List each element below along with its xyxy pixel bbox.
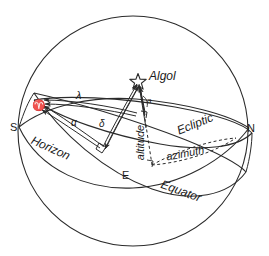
celestial-sphere-diagram: Algol ♈ λ α δ a altitude azimuth Eclipti…	[0, 0, 269, 256]
cardinal-east-label: E	[122, 170, 129, 181]
right-ascension-label: α	[71, 118, 77, 128]
cardinal-north-label: N	[247, 123, 255, 134]
altitude-label: altitude	[135, 125, 146, 160]
star-icon	[130, 74, 146, 90]
lambda-arc	[44, 100, 137, 113]
delta-arc-return	[105, 87, 138, 149]
star-to-horizon-segment	[139, 85, 146, 128]
right-rim-cap-arc	[246, 133, 252, 172]
ecliptic-longitude-label: λ	[76, 90, 81, 101]
altitude-angle-label: a	[147, 97, 151, 105]
cardinal-south-label: S	[10, 122, 17, 133]
vernal-point-label: ♈	[32, 100, 46, 111]
star-name-label: Algol	[149, 70, 176, 82]
sphere-outline	[18, 16, 248, 246]
declination-label: δ	[99, 119, 105, 129]
